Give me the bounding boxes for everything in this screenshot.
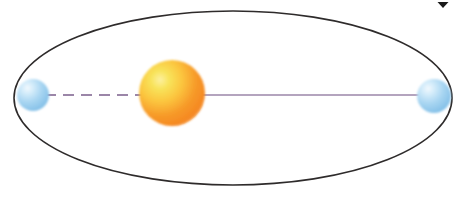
sun-limb-glow — [139, 60, 205, 126]
sun-body — [139, 60, 205, 126]
planet-perihelion-body — [417, 79, 451, 113]
diagram-background — [0, 0, 462, 212]
orbit-diagram — [0, 0, 462, 212]
orbit-diagram-canvas — [0, 0, 462, 212]
planet-aphelion-disc — [17, 79, 49, 111]
planet-aphelion-body — [17, 79, 49, 111]
planet-perihelion-disc — [417, 79, 451, 113]
